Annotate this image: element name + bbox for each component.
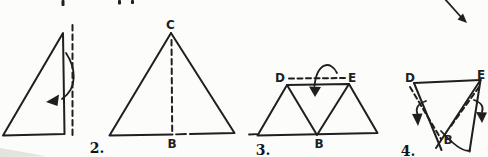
triangle-right-side xyxy=(171,33,235,134)
figure-step-4: D E B 4. xyxy=(401,68,487,157)
top-edge xyxy=(414,80,481,83)
curved-fold-left-arrow-icon xyxy=(46,53,74,106)
cropped-text-fragment xyxy=(118,0,121,5)
curved-fold-down-arrow-icon xyxy=(309,65,337,97)
figure-step-2: C B 2. xyxy=(90,18,235,156)
triangle-left-side xyxy=(110,33,173,136)
point-label-E: E xyxy=(348,71,356,85)
page-edge-arrow-icon xyxy=(444,0,467,23)
origami-steps-diagram: C B 2. D E B 3. xyxy=(0,0,488,157)
point-label-B: B xyxy=(314,137,323,151)
point-label-C: C xyxy=(166,18,175,32)
point-label-D: D xyxy=(275,71,285,85)
cropped-text-fragment xyxy=(131,0,134,4)
scanned-diagram-page: C B 2. D E B 3. xyxy=(0,0,488,157)
figure-step-3: D E B 3. xyxy=(256,65,378,157)
step-number: 3. xyxy=(256,142,271,157)
cropped-text-fragment xyxy=(62,0,65,6)
right-triangle-outline xyxy=(3,33,65,136)
point-label-D: D xyxy=(405,71,415,85)
point-label-B: B xyxy=(443,133,452,147)
step-number: 2. xyxy=(90,140,105,156)
point-label-B: B xyxy=(167,137,176,151)
center-fold-line-dashed xyxy=(172,40,173,131)
scan-shadow xyxy=(0,148,46,157)
left-fold-line-dashed xyxy=(410,87,441,139)
point-label-E: E xyxy=(477,68,485,82)
fold-line-dashed xyxy=(289,78,346,79)
step-number: 4. xyxy=(401,143,416,157)
figure-step-1 xyxy=(3,25,74,136)
